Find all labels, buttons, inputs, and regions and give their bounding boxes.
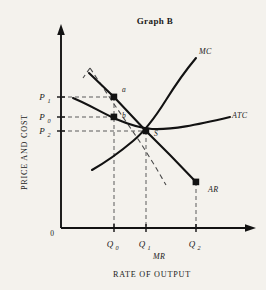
- svg-text:P: P: [38, 126, 45, 136]
- x-tick-label-q1: Q 1: [139, 239, 151, 251]
- atc-curve: [73, 98, 230, 129]
- x-tick-label-q0: Q 0: [107, 239, 120, 251]
- point-marker-b: [111, 114, 118, 121]
- point-label-b: b: [122, 111, 126, 120]
- svg-text:1: 1: [47, 97, 50, 104]
- arrow-up-icon: [57, 24, 65, 35]
- svg-text:2: 2: [47, 131, 50, 138]
- svg-text:0: 0: [47, 117, 51, 124]
- point-label-a: a: [122, 85, 126, 94]
- y-tick-label-p1: P 1: [38, 92, 50, 104]
- curve-label-atc: ATC: [231, 111, 248, 120]
- svg-text:Q: Q: [189, 239, 196, 249]
- y-axis-title: PRICE AND COST: [20, 114, 29, 190]
- x-axis-title: RATE OF OUTPUT: [113, 270, 191, 279]
- origin-label: 0: [50, 229, 54, 238]
- svg-text:0: 0: [115, 244, 119, 251]
- svg-text:Q: Q: [139, 239, 146, 249]
- page-title: Graph B: [137, 16, 174, 26]
- point-marker-a: [111, 94, 118, 101]
- curve-label-ar: AR: [207, 185, 218, 194]
- y-tick-label-p2: P 2: [38, 126, 50, 138]
- svg-text:P: P: [38, 112, 45, 122]
- point-label-s: S: [154, 129, 158, 138]
- svg-text:P: P: [38, 92, 45, 102]
- y-tick-label-p0: P 0: [38, 112, 51, 124]
- economics-graph-figure: Graph B PRICE AND COST RATE OF OUTPUT 0 …: [0, 0, 266, 290]
- x-tick-label-q2: Q 2: [189, 239, 201, 251]
- point-marker-ar-end: [193, 179, 200, 186]
- arrow-right-icon: [245, 224, 256, 232]
- curve-label-mc: MC: [198, 47, 212, 56]
- svg-text:1: 1: [147, 244, 150, 251]
- svg-text:2: 2: [197, 244, 200, 251]
- svg-text:Q: Q: [107, 239, 114, 249]
- point-marker-s: [143, 128, 150, 135]
- curve-label-mr: MR: [152, 252, 165, 261]
